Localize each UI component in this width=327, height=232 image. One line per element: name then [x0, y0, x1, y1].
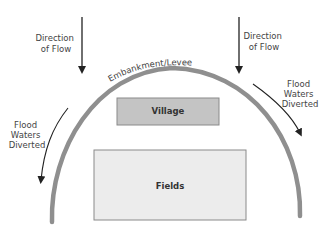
- flow-label-right: Direction of Flow: [243, 31, 284, 52]
- flow-label-left: Direction of Flow: [35, 33, 76, 54]
- diverted-label-right: Flood Waters Diverted: [282, 79, 319, 109]
- levee-diagram: Direction of Flow Direction of Flow Emba…: [0, 0, 327, 232]
- diverted-label-left: Flood Waters Diverted: [9, 120, 46, 150]
- village-label: Village: [152, 106, 185, 116]
- fields-label: Fields: [156, 181, 185, 191]
